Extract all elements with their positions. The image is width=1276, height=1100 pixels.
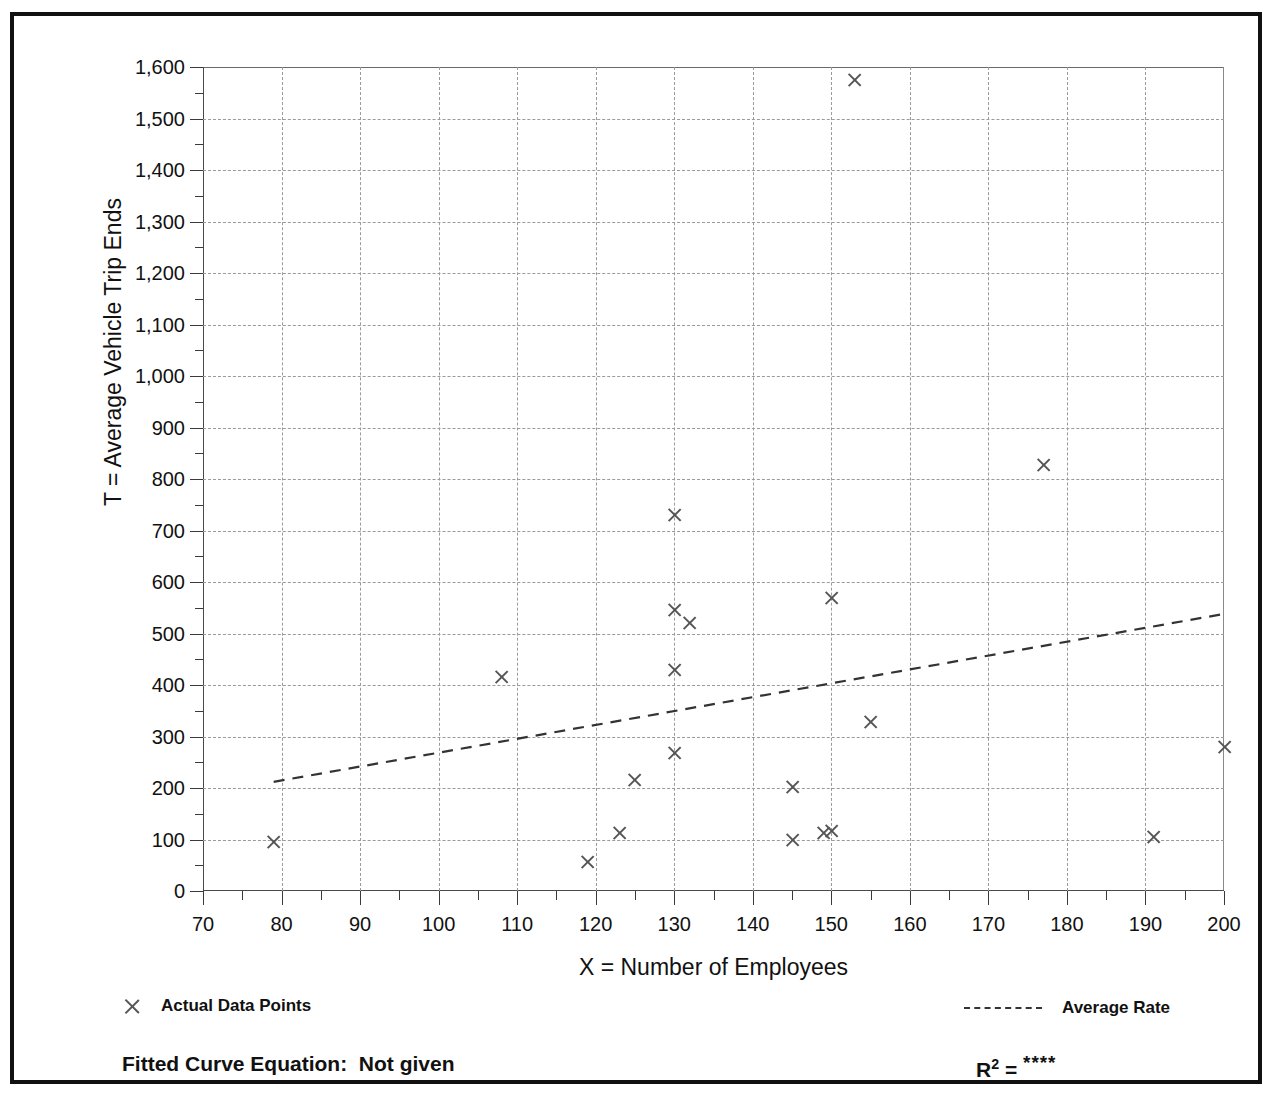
y-tick-minor [195, 814, 203, 815]
y-tick [190, 67, 203, 68]
y-tick-label: 100 [152, 828, 185, 851]
y-tick-label: 900 [152, 416, 185, 439]
y-tick-minor [195, 196, 203, 197]
y-tick [190, 891, 203, 892]
y-tick-minor [195, 299, 203, 300]
y-tick [190, 325, 203, 326]
y-tick [190, 840, 203, 841]
chart-frame: T = Average Vehicle Trip Ends 0100200300… [10, 12, 1262, 1084]
y-tick-label: 600 [152, 571, 185, 594]
r-squared-equals: = [999, 1058, 1023, 1081]
y-tick-label: 1,300 [135, 210, 185, 233]
x-tick [517, 891, 518, 905]
y-tick-label: 1,500 [135, 107, 185, 130]
y-tick-minor [195, 453, 203, 454]
x-tick-minor [242, 891, 243, 900]
x-tick-label: 90 [349, 913, 371, 936]
x-tick-label: 160 [893, 913, 926, 936]
chart-footer: Fitted Curve Equation: Not given R2 = **… [14, 1052, 1258, 1096]
y-tick-label: 1,100 [135, 313, 185, 336]
x-tick-minor [792, 891, 793, 900]
x-tick-minor [399, 891, 400, 900]
y-tick-minor [195, 762, 203, 763]
x-axis-title: X = Number of Employees [203, 954, 1224, 981]
x-tick-minor [556, 891, 557, 900]
y-tick [190, 685, 203, 686]
fitted-curve-equation: Fitted Curve Equation: Not given [122, 1052, 455, 1076]
x-tick [1224, 891, 1225, 905]
y-tick [190, 582, 203, 583]
plot-area: 01002003004005006007008009001,0001,1001,… [203, 67, 1224, 891]
y-tick [190, 479, 203, 480]
y-tick [190, 273, 203, 274]
x-tick-label: 100 [422, 913, 455, 936]
x-tick-minor [321, 891, 322, 900]
x-tick-minor [714, 891, 715, 900]
x-tick-minor [635, 891, 636, 900]
y-tick [190, 428, 203, 429]
y-tick-label: 400 [152, 674, 185, 697]
y-tick [190, 531, 203, 532]
y-tick-minor [195, 247, 203, 248]
x-tick-minor [949, 891, 950, 900]
x-tick-label: 200 [1207, 913, 1240, 936]
y-tick-minor [195, 93, 203, 94]
legend-label-actual-data-points: Actual Data Points [161, 996, 311, 1016]
y-tick [190, 737, 203, 738]
x-marker-icon [122, 997, 141, 1016]
y-tick-minor [195, 659, 203, 660]
y-tick-label: 1,600 [135, 56, 185, 79]
y-tick-label: 700 [152, 519, 185, 542]
r-squared-exponent: 2 [991, 1056, 999, 1072]
x-tick [1067, 891, 1068, 905]
chart-legend: Actual Data Points Average Rate [14, 996, 1258, 1034]
x-tick [988, 891, 989, 905]
y-tick-label: 500 [152, 622, 185, 645]
x-tick-minor [1028, 891, 1029, 900]
dashed-line-icon [964, 1007, 1042, 1009]
y-tick-label: 300 [152, 725, 185, 748]
x-tick-label: 130 [658, 913, 691, 936]
y-tick-label: 200 [152, 777, 185, 800]
x-tick-minor [1185, 891, 1186, 900]
r-squared-annotation: R2 = **** [976, 1052, 1056, 1082]
y-tick-minor [195, 402, 203, 403]
y-tick-minor [195, 865, 203, 866]
x-tick-label: 140 [736, 913, 769, 936]
y-axis-title: T = Average Vehicle Trip Ends [100, 198, 127, 506]
y-tick [190, 170, 203, 171]
x-tick-minor [1106, 891, 1107, 900]
x-tick [753, 891, 754, 905]
y-tick-minor [195, 608, 203, 609]
x-tick [282, 891, 283, 905]
y-tick [190, 788, 203, 789]
r-squared-label: R [976, 1058, 991, 1081]
x-tick-label: 180 [1050, 913, 1083, 936]
legend-item-average-rate: Average Rate [964, 998, 1170, 1018]
y-tick [190, 119, 203, 120]
x-tick [1145, 891, 1146, 905]
legend-label-average-rate: Average Rate [1062, 998, 1170, 1018]
x-tick-minor [478, 891, 479, 900]
x-tick [203, 891, 204, 905]
y-tick-label: 1,000 [135, 365, 185, 388]
x-tick [831, 891, 832, 905]
x-tick [910, 891, 911, 905]
y-tick-label: 800 [152, 468, 185, 491]
y-tick [190, 376, 203, 377]
x-tick-minor [871, 891, 872, 900]
y-tick [190, 634, 203, 635]
y-tick-label: 1,200 [135, 262, 185, 285]
x-tick-label: 190 [1129, 913, 1162, 936]
x-tick-label: 80 [270, 913, 292, 936]
y-tick-minor [195, 350, 203, 351]
legend-item-actual-data-points: Actual Data Points [122, 996, 311, 1016]
x-tick [439, 891, 440, 905]
y-tick-minor [195, 144, 203, 145]
x-tick-label: 150 [815, 913, 848, 936]
y-tick-label: 1,400 [135, 159, 185, 182]
y-tick [190, 222, 203, 223]
x-tick [596, 891, 597, 905]
y-tick-minor [195, 505, 203, 506]
x-tick-label: 70 [192, 913, 214, 936]
